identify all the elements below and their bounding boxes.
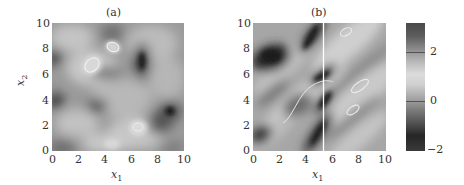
b-ytick: 8 bbox=[243, 43, 250, 54]
b-xtick: 2 bbox=[276, 154, 283, 165]
colorbar bbox=[406, 23, 425, 151]
colorbar-tick-label: 2 bbox=[430, 46, 437, 57]
b-xtick: 0 bbox=[250, 154, 257, 165]
a-xtick: 4 bbox=[101, 154, 108, 165]
colorbar-tick-label: 0 bbox=[430, 95, 437, 106]
a-xlabel: x1 bbox=[111, 168, 122, 183]
b-ytick: 6 bbox=[243, 69, 250, 80]
a-xtick: 6 bbox=[128, 154, 135, 165]
panel-b-title: (b) bbox=[311, 6, 327, 19]
panel-a-title: (a) bbox=[106, 6, 121, 19]
a-ytick: 8 bbox=[42, 43, 49, 54]
colorbar-tick-mark bbox=[406, 52, 425, 53]
heatmap-a bbox=[52, 23, 184, 151]
a-ytick: 6 bbox=[42, 69, 49, 80]
a-ytick: 2 bbox=[42, 120, 49, 131]
a-xtick: 2 bbox=[75, 154, 82, 165]
b-xtick: 6 bbox=[329, 154, 336, 165]
b-ytick: 4 bbox=[243, 95, 250, 106]
b-xtick: 4 bbox=[302, 154, 309, 165]
b-ytick: 2 bbox=[243, 120, 250, 131]
b-xlabel: x1 bbox=[312, 168, 323, 183]
a-ytick: 4 bbox=[42, 95, 49, 106]
a-xtick: 10 bbox=[177, 154, 191, 165]
b-xtick: 10 bbox=[378, 154, 392, 165]
b-ytick: 10 bbox=[237, 18, 251, 29]
b-ytick: 0 bbox=[243, 145, 250, 156]
colorbar-tick-mark bbox=[406, 101, 425, 102]
heatmap-b bbox=[253, 23, 386, 151]
b-xtick: 8 bbox=[355, 154, 362, 165]
a-xtick: 8 bbox=[154, 154, 161, 165]
a-xtick: 0 bbox=[49, 154, 56, 165]
a-ylabel: x2 bbox=[14, 75, 29, 86]
colorbar-tick-label: −2 bbox=[427, 144, 443, 155]
a-ytick: 10 bbox=[36, 18, 50, 29]
a-ytick: 0 bbox=[42, 145, 49, 156]
